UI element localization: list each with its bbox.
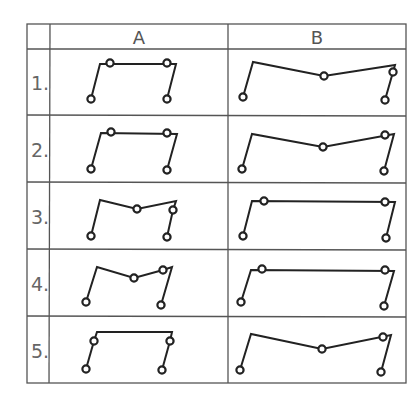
link-bar — [91, 200, 176, 237]
pivot-joint-icon — [236, 366, 243, 373]
linkage-figure-b1 — [239, 62, 396, 104]
link-bar — [242, 134, 394, 171]
linkage-figure-b5 — [236, 333, 391, 375]
row-divider-1 — [27, 115, 406, 116]
pivot-joint-icon — [237, 298, 244, 305]
pivot-joint-icon — [238, 165, 245, 172]
link-bar — [243, 62, 395, 100]
linkage-figure-b3 — [239, 197, 395, 241]
linkage-figure-a3 — [87, 200, 176, 241]
link-bar — [94, 332, 172, 341]
link-bar — [240, 334, 391, 372]
column-header-a: A — [133, 27, 146, 48]
pivot-joint-icon — [380, 167, 387, 174]
pivot-joint-icon — [389, 68, 396, 75]
pivot-joint-icon — [87, 95, 94, 102]
pivot-joint-icon — [163, 233, 170, 240]
row-label-5: 5. — [31, 340, 49, 362]
pivot-joint-icon — [90, 337, 97, 344]
pivot-joint-icon — [133, 205, 140, 212]
linkage-figure-a5 — [82, 332, 173, 374]
linkage-figure-b4 — [237, 265, 394, 309]
link-bar — [91, 64, 176, 99]
pivot-joint-icon — [106, 59, 113, 66]
row-label-2: 2. — [31, 139, 49, 161]
linkage-figure-b2 — [238, 131, 394, 174]
pivot-joint-icon — [239, 93, 246, 100]
link-bar — [243, 201, 395, 238]
pivot-joint-icon — [382, 234, 389, 241]
pivot-joint-icon — [380, 302, 387, 309]
pivot-joint-icon — [258, 265, 265, 272]
linkage-figure-a1 — [87, 59, 176, 102]
pivot-joint-icon — [166, 337, 173, 344]
link-bar — [86, 267, 172, 305]
row-divider-3 — [27, 249, 406, 250]
pivot-joint-icon — [169, 206, 176, 213]
pivot-joint-icon — [107, 128, 114, 135]
pivot-joint-icon — [158, 366, 165, 373]
pivot-joint-icon — [320, 72, 327, 79]
pivot-joint-icon — [157, 301, 164, 308]
pivot-joint-icon — [163, 166, 170, 173]
pivot-joint-icon — [163, 129, 170, 136]
table-border — [27, 24, 406, 383]
pivot-joint-icon — [381, 198, 388, 205]
row-divider-4 — [27, 316, 406, 317]
pivot-joint-icon — [163, 95, 170, 102]
pivot-joint-icon — [319, 143, 326, 150]
row-label-divider — [49, 24, 50, 383]
pivot-joint-icon — [379, 333, 386, 340]
pivot-joint-icon — [318, 345, 325, 352]
pivot-joint-icon — [260, 197, 267, 204]
pivot-joint-icon — [130, 274, 137, 281]
pivot-joint-icon — [239, 232, 246, 239]
linkage-figure-a2 — [87, 128, 177, 173]
link-bar — [91, 133, 177, 170]
pivot-joint-icon — [377, 368, 384, 375]
table-grid — [27, 24, 406, 383]
pivot-joint-icon — [381, 266, 388, 273]
pivot-joint-icon — [381, 96, 388, 103]
pivot-joint-icon — [163, 59, 170, 66]
pivot-joint-icon — [82, 365, 89, 372]
pivot-joint-icon — [87, 165, 94, 172]
link-bar — [241, 270, 394, 306]
linkage-comparison-table: A B 1. 2. 3. 4. 5. — [0, 0, 418, 401]
pivot-joint-icon — [381, 131, 388, 138]
pivot-joint-icon — [87, 232, 94, 239]
row-divider-2 — [27, 182, 406, 183]
column-header-b: B — [311, 27, 323, 48]
linkage-figure-a4 — [82, 266, 172, 308]
row-label-3: 3. — [31, 206, 49, 228]
row-label-4: 4. — [31, 273, 49, 295]
pivot-joint-icon — [159, 266, 166, 273]
pivot-joint-icon — [82, 298, 89, 305]
row-label-1: 1. — [31, 72, 49, 94]
